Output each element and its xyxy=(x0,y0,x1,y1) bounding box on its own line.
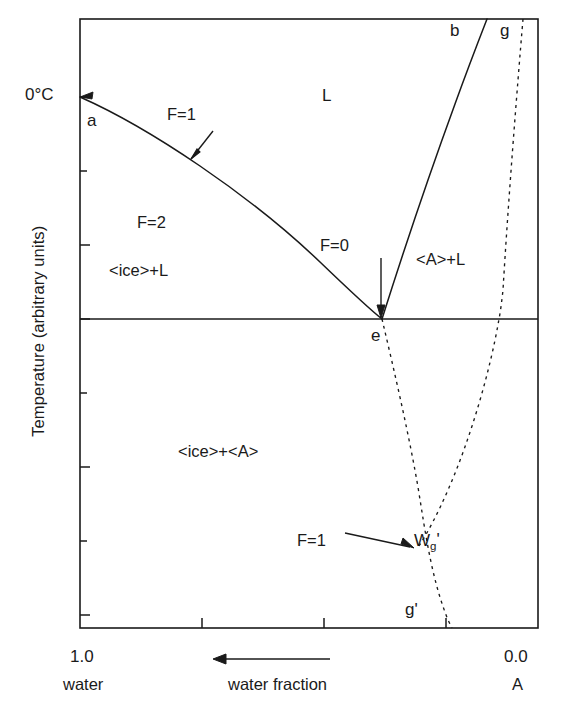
wg-main-letter: W xyxy=(414,531,430,550)
freedom-f1-lower-label: F=1 xyxy=(297,532,326,549)
point-a-label: a xyxy=(87,112,96,129)
x-axis-direction-arrow xyxy=(213,654,330,664)
phase-diagram-figure: Temperature (arbitrary units) 0°C a b g … xyxy=(0,0,572,701)
region-ice-plus-liquid-label: <ice>+L xyxy=(109,262,168,279)
y-axis-title: Temperature (arbitrary units) xyxy=(30,201,47,461)
x-axis-right-value: 0.0 xyxy=(504,648,528,665)
phase-diagram-svg xyxy=(0,0,572,701)
point-e-label: e xyxy=(371,327,380,344)
freedom-f1-upper-label: F=1 xyxy=(167,106,196,123)
point-g-prime-label: g' xyxy=(405,601,418,618)
region-liquid-label: L xyxy=(322,87,331,104)
f1-upper-leader-arrow xyxy=(191,131,213,159)
wg-prime-mark: ' xyxy=(436,530,439,549)
x-axis-left-value: 1.0 xyxy=(70,648,94,665)
y-axis-ticks xyxy=(80,97,90,615)
f1-lower-leader-arrow xyxy=(345,533,414,548)
x-axis-title: water fraction xyxy=(228,676,327,693)
region-a-plus-liquid-label: <A>+L xyxy=(416,251,465,268)
x-axis-left-endmember-label: water xyxy=(63,676,103,693)
point-g-label: g xyxy=(500,22,509,39)
metastable-ice-liquidus-dashed xyxy=(382,319,452,628)
freedom-f0-label: F=0 xyxy=(320,237,349,254)
wg-prime-label: Wg' xyxy=(414,531,440,553)
freedom-f2-label: F=2 xyxy=(137,214,166,231)
glass-transition-dashed xyxy=(419,19,523,546)
a-liquidus-curve xyxy=(382,19,487,319)
f0-leader-arrow xyxy=(377,258,385,318)
ice-liquidus-curve xyxy=(80,97,382,319)
region-ice-plus-a-label: <ice>+<A> xyxy=(178,443,258,460)
zero-celsius-label: 0°C xyxy=(25,86,54,103)
x-axis-right-endmember-label: A xyxy=(512,676,523,693)
x-axis-ticks xyxy=(202,618,446,628)
point-b-label: b xyxy=(450,22,459,39)
